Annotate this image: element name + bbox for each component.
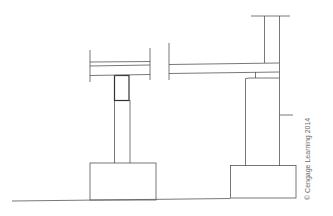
foundation-diagram [0,0,333,216]
left-post [115,100,131,163]
left-post-cap [115,76,130,101]
upper-wall [251,16,290,166]
right-beam [169,43,279,80]
left-beam [90,48,150,82]
right-footing [231,166,297,199]
copyright-credit: © Cengage Learning 2014 [304,118,311,200]
right-pier [246,78,251,166]
left-footing [90,163,156,200]
bearing-strip [250,72,279,78]
